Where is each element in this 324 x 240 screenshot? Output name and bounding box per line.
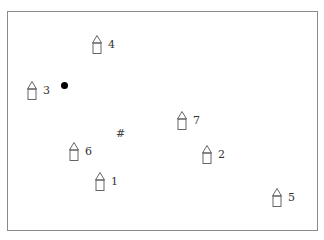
house-label: 6 [85,146,92,157]
house-icon [92,35,102,54]
house-label: 1 [111,176,118,187]
agent-dot-icon [61,82,68,89]
house-label: 3 [43,85,50,96]
house-label: 5 [288,192,295,203]
house-icon [27,81,37,100]
house-icon [272,188,282,207]
house-icon [69,142,79,161]
house-icon [202,145,212,164]
house-icon [177,111,187,130]
house-label: 4 [108,39,115,50]
house-label: 7 [193,115,200,126]
house-label: 2 [218,149,225,160]
goal-marker: # [116,128,125,139]
house-icon [95,172,105,191]
